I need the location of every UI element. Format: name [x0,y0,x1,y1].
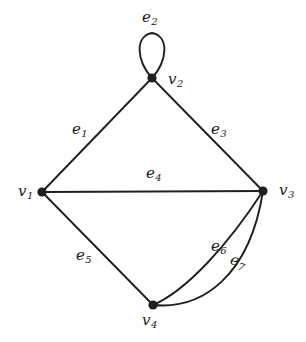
edge-label-e5: e5 [76,248,92,265]
edge-e1 [42,78,152,192]
vertex-label-v2: v2 [168,72,183,89]
edge-label-e6: e6 [211,239,227,256]
edge-e3 [152,78,263,191]
vertex-dot-v4 [148,300,157,309]
edge-e5 [42,192,153,305]
vertex-dot-v3 [258,186,267,195]
vertex-label-v3: v3 [279,183,294,200]
vertex-dot-v2 [147,73,156,82]
edge-label-e3: e3 [211,122,227,139]
edge-label-e1: e1 [72,122,88,139]
vertex-label-v4: v4 [142,313,157,330]
vertex-label-v1: v1 [18,184,33,201]
vertex-dot-v1 [37,187,46,196]
edge-e2-self-loop [140,33,165,78]
edge-e4 [42,191,263,192]
graph-figure: v1 v2 v3 v4 e1 e2 e3 e4 e5 e6 e7 [0,0,306,342]
edge-e7 [153,191,263,305]
edge-label-e4: e4 [146,166,162,183]
edge-label-e2: e2 [142,10,158,27]
